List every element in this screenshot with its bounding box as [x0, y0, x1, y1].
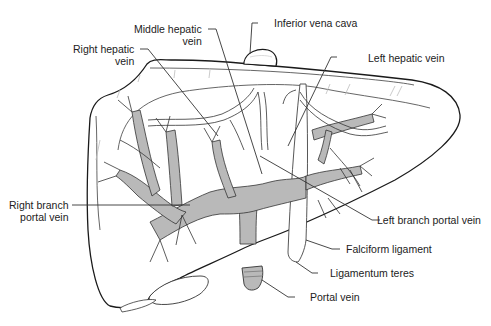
label-text: Portal vein	[310, 291, 360, 303]
label-portal-vein: Portal vein	[310, 291, 360, 303]
label-middle-hepatic-vein: Middle hepatic vein	[134, 23, 202, 47]
label-text: vein	[73, 55, 134, 67]
label-text: Right hepatic	[73, 43, 134, 55]
label-text: Inferior vena cava	[274, 17, 357, 29]
label-right-branch-portal-vein: Right branch portal vein	[9, 199, 69, 223]
label-text: Left hepatic vein	[368, 52, 444, 64]
label-right-hepatic-vein: Right hepatic vein	[73, 43, 134, 67]
label-inferior-vena-cava: Inferior vena cava	[274, 17, 357, 29]
inferior-vena-cava-shape	[244, 50, 277, 67]
label-text: Falciform ligament	[346, 243, 432, 255]
label-falciform-ligament: Falciform ligament	[346, 243, 432, 255]
label-text: Left branch portal vein	[377, 214, 481, 226]
label-text: portal vein	[9, 211, 69, 223]
portal-vein-tree	[116, 110, 374, 244]
label-ligamentum-teres: Ligamentum teres	[330, 267, 414, 279]
label-text: Right branch	[9, 199, 69, 211]
gallbladder-shape	[120, 276, 208, 312]
label-text: Middle hepatic	[134, 23, 202, 35]
label-text: Ligamentum teres	[330, 267, 414, 279]
label-text: vein	[134, 35, 202, 47]
label-left-hepatic-vein: Left hepatic vein	[368, 52, 444, 64]
falciform-ligament-shape	[283, 84, 308, 262]
label-left-branch-portal-vein: Left branch portal vein	[377, 214, 481, 226]
portal-vein-stub	[242, 266, 263, 290]
